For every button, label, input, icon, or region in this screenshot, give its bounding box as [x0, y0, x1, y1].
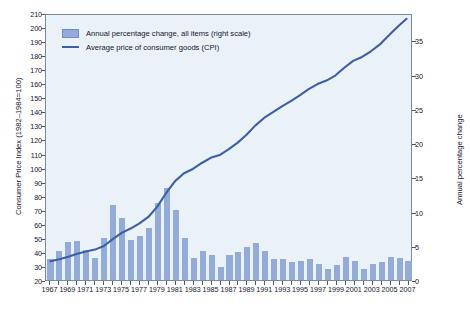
x-tick-2003: 2003	[364, 285, 380, 294]
x-tick-1995: 1995	[292, 285, 308, 294]
legend-label-bar: Annual percentage change, all items (rig…	[86, 29, 251, 38]
left-tickmark-170	[41, 70, 45, 71]
left-tickmark-110	[41, 155, 45, 156]
x-tick-2007: 2007	[400, 285, 416, 294]
left-tickmark-150	[41, 98, 45, 99]
x-tick-1989: 1989	[238, 285, 254, 294]
right-tickmark-25	[412, 110, 416, 111]
x-tick-1997: 1997	[310, 285, 326, 294]
right-tickmark-15	[412, 178, 416, 179]
x-tick-1983: 1983	[185, 285, 201, 294]
left-tickmark-190	[41, 42, 45, 43]
x-tick-1979: 1979	[149, 285, 165, 294]
left-tickmark-80	[41, 197, 45, 198]
x-tick-1967: 1967	[41, 285, 57, 294]
left-tickmark-90	[41, 183, 45, 184]
right-tick-35: 35	[415, 37, 423, 46]
right-axis-title: Annual percentage change	[455, 114, 464, 205]
left-tickmark-70	[41, 211, 45, 212]
right-tickmark-10	[412, 213, 416, 214]
right-tickmark-0	[412, 281, 416, 282]
x-tick-1999: 1999	[328, 285, 344, 294]
left-tickmark-60	[41, 225, 45, 226]
right-tick-30: 30	[415, 71, 423, 80]
cpi-inflation-chart: 2030405060708090100110120130140150160170…	[0, 0, 470, 313]
right-tickmark-35	[412, 41, 416, 42]
x-axis-tick-labels: 1967196919711973197519771979198119831985…	[0, 285, 470, 301]
left-tickmark-120	[41, 140, 45, 141]
x-tick-1973: 1973	[95, 285, 111, 294]
x-tick-1981: 1981	[167, 285, 183, 294]
left-tickmark-140	[41, 112, 45, 113]
x-tick-2001: 2001	[346, 285, 362, 294]
left-tickmark-200	[41, 28, 45, 29]
x-tick-1987: 1987	[221, 285, 237, 294]
left-tickmark-210	[41, 14, 45, 15]
right-tick-15: 15	[415, 174, 423, 183]
x-tick-1993: 1993	[274, 285, 290, 294]
left-tickmark-130	[41, 126, 45, 127]
left-tickmark-180	[41, 56, 45, 57]
x-tick-1969: 1969	[59, 285, 75, 294]
legend-item-line: Average price of consumer goods (CPI)	[62, 41, 251, 53]
right-tick-10: 10	[415, 208, 423, 217]
left-tickmark-30	[41, 267, 45, 268]
bar-swatch-icon	[62, 29, 79, 38]
x-tick-1975: 1975	[113, 285, 129, 294]
right-tickmark-5	[412, 247, 416, 248]
x-tick-1985: 1985	[203, 285, 219, 294]
left-tickmark-100	[41, 169, 45, 170]
left-tickmark-50	[41, 239, 45, 240]
left-axis-title: Consumer Price Index (1982–1984=100)	[14, 78, 23, 215]
right-tick-25: 25	[415, 105, 423, 114]
line-swatch-icon	[62, 46, 79, 48]
x-tick-1991: 1991	[256, 285, 272, 294]
left-tickmark-160	[41, 84, 45, 85]
right-axis-tick-labels: 05101520253035	[415, 0, 441, 313]
right-tickmark-20	[412, 144, 416, 145]
legend: Annual percentage change, all items (rig…	[62, 27, 251, 55]
right-tick-20: 20	[415, 140, 423, 149]
legend-item-bar: Annual percentage change, all items (rig…	[62, 27, 251, 39]
left-tickmark-20	[41, 281, 45, 282]
x-tick-1977: 1977	[131, 285, 147, 294]
x-tick-2005: 2005	[382, 285, 398, 294]
legend-label-line: Average price of consumer goods (CPI)	[86, 43, 219, 52]
right-tickmark-30	[412, 76, 416, 77]
left-tickmark-40	[41, 253, 45, 254]
x-tick-1971: 1971	[77, 285, 93, 294]
